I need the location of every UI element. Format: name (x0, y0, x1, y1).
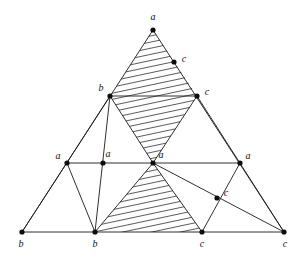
vertex-dot-c-row2-right (194, 93, 199, 98)
vertex-dot-c-upper (171, 59, 176, 64)
vertex-dot-c-bottom-mid (199, 229, 204, 234)
label-c-bottom-right: c (283, 238, 288, 249)
vertex-dot-a-center (150, 160, 155, 165)
triangle-figure: acbcaaaacbbcc (0, 0, 302, 258)
label-c-bottom-mid: c (200, 238, 205, 249)
label-b-row2-left: b (99, 82, 104, 93)
vertex-dot-c-bottom-right (281, 229, 286, 234)
label-a-center: a (159, 149, 164, 160)
label-b-bottom-left: b (19, 238, 24, 249)
vertex-dot-a-mid-left (64, 160, 69, 165)
vertex-dot-a-mid-right (237, 160, 242, 165)
vertex-dot-b-bottom-mid (92, 229, 97, 234)
label-a-mid-inner: a (106, 148, 111, 159)
vertex-dot-b-row2-left (107, 93, 112, 98)
label-c-lower-right: c (224, 187, 229, 198)
triangle-diagram-canvas: acbcaaaacbbcc (0, 0, 302, 258)
label-a-apex: a (151, 11, 156, 22)
vertex-dot-b-bottom-left (19, 229, 24, 234)
label-c-upper: c (182, 53, 187, 64)
label-b-bottom-mid: b (93, 238, 98, 249)
vertex-dot-a-apex (150, 27, 155, 32)
vertex-dot-c-lower-right (214, 195, 219, 200)
label-a-mid-right: a (246, 150, 251, 161)
vertex-dot-a-mid-inner (100, 160, 105, 165)
label-a-mid-left: a (56, 150, 61, 161)
label-c-row2-right: c (205, 86, 210, 97)
